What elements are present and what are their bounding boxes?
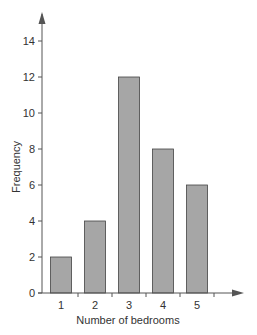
y-axis-label: Frequency: [10, 141, 22, 193]
bar-3: [119, 77, 140, 293]
x-tick-label: 4: [160, 299, 166, 311]
y-tick-label: 8: [29, 143, 35, 155]
y-tick-label: 10: [23, 107, 35, 119]
y-tick-label: 14: [23, 35, 35, 47]
y-tick-label: 4: [29, 215, 35, 227]
x-axis: 12345: [38, 290, 244, 312]
y-tick-label: 0: [29, 287, 35, 299]
x-tick-label: 5: [194, 299, 200, 311]
bar-5: [187, 185, 208, 293]
y-axis: 02468101214: [23, 12, 46, 299]
bars-group: [51, 77, 208, 293]
bar-2: [85, 221, 106, 293]
bar-1: [51, 257, 72, 293]
x-tick-label: 2: [92, 299, 98, 311]
y-axis-arrow-icon: [39, 12, 46, 24]
y-tick-label: 6: [29, 179, 35, 191]
bar-chart: 02468101214 12345 Number of bedrooms Fre…: [0, 0, 257, 335]
y-tick-label: 12: [23, 71, 35, 83]
bar-4: [153, 149, 174, 293]
x-axis-arrow-icon: [232, 290, 244, 297]
x-tick-label: 3: [126, 299, 132, 311]
y-tick-label: 2: [29, 251, 35, 263]
x-tick-label: 1: [58, 299, 64, 311]
x-axis-label: Number of bedrooms: [76, 314, 180, 326]
